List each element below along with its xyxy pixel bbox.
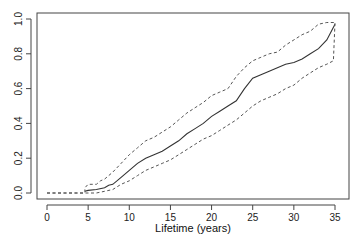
x-tick-label: 10 xyxy=(124,212,136,223)
y-tick-label: 0.8 xyxy=(13,46,24,60)
y-tick-label: 0.2 xyxy=(13,151,24,165)
x-tick-label: 35 xyxy=(329,212,341,223)
x-axis-title: Lifetime (years) xyxy=(155,222,231,234)
lifetime-cdf-chart: 05101520253035 0.00.20.40.60.81.0 Lifeti… xyxy=(0,0,364,244)
y-tick-label: 1.0 xyxy=(13,12,24,26)
y-tick-label: 0.6 xyxy=(13,81,24,95)
estimate-line xyxy=(85,24,335,191)
y-tick-label: 0.0 xyxy=(13,186,24,200)
y-tick-label: 0.4 xyxy=(13,116,24,130)
upper-bound-line xyxy=(47,23,335,194)
x-tick-label: 30 xyxy=(288,212,300,223)
lower-bound-line xyxy=(47,23,335,194)
x-tick-label: 0 xyxy=(44,212,50,223)
series-group xyxy=(47,23,335,194)
y-axis: 0.00.20.40.60.81.0 xyxy=(13,12,31,200)
x-axis: 05101520253035 xyxy=(44,205,341,223)
plot-frame xyxy=(37,13,349,199)
x-tick-label: 5 xyxy=(85,212,91,223)
x-tick-label: 25 xyxy=(247,212,259,223)
